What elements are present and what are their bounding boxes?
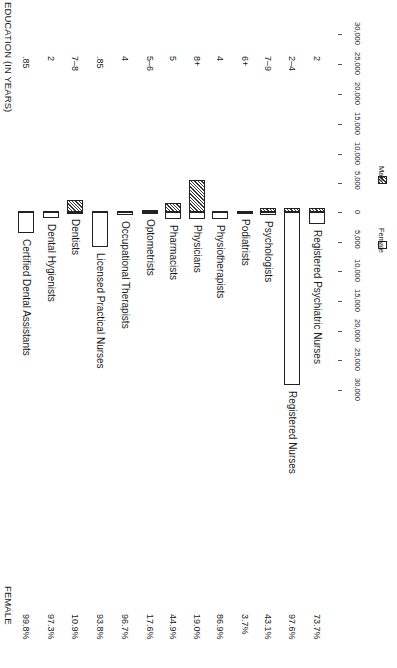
axis-tick-label: 25,000: [353, 348, 362, 371]
female-percent: 99.8%: [21, 614, 31, 640]
axis-tick-label: 30,000: [353, 22, 362, 45]
axis-tick-label: 30,000: [353, 378, 362, 401]
category-label: Optometrists: [145, 219, 156, 276]
female-bar: [260, 212, 276, 215]
legend-male-label: Male: [377, 166, 386, 182]
male-bar: [67, 200, 83, 212]
male-bar: [189, 180, 205, 212]
axis-tick: [338, 183, 342, 184]
female-bar: [43, 212, 59, 218]
axis-tick: [338, 360, 342, 361]
education-value: 2: [46, 56, 56, 61]
axis-tick-label: 5,000: [353, 171, 362, 190]
male-bar: [165, 203, 181, 212]
axis-tick-label: 15,000: [353, 289, 362, 312]
category-label: Physicians: [192, 225, 203, 273]
education-value: 7–8: [70, 56, 80, 71]
axis-tick-label: 25,000: [353, 52, 362, 75]
axis-tick: [338, 64, 342, 65]
female-percent: 97.6%: [287, 614, 297, 640]
axis-tick-label: 10,000: [353, 259, 362, 282]
category-label: Registered Psychiatric Nurses: [312, 230, 323, 364]
female-percent: 97.3%: [46, 614, 56, 640]
category-label: Dentists: [70, 219, 81, 255]
female-bar: [284, 212, 300, 385]
axis-tick: [338, 94, 342, 95]
axis-tick: [338, 34, 342, 35]
education-value: 5–6: [145, 56, 155, 71]
female-percent: 10.9%: [70, 614, 80, 640]
category-label: Pharmacists: [168, 225, 179, 280]
category-label: Certified Dental Assistants: [21, 239, 32, 356]
female-percent: 93.8%: [95, 614, 105, 640]
education-value: 4: [215, 56, 225, 61]
female-percent: 17.6%: [145, 614, 155, 640]
female-percent: 96.7%: [120, 614, 130, 640]
education-value: .85: [95, 56, 105, 69]
education-value: 6+: [240, 56, 250, 66]
female-bar: [309, 212, 325, 224]
axis-tick-label: 20,000: [353, 82, 362, 105]
axis-tick: [338, 390, 342, 391]
legend-female-label: Female: [377, 228, 386, 253]
axis-tick: [338, 212, 342, 213]
axis-tick: [338, 301, 342, 302]
female-bar: [189, 212, 205, 219]
education-header: EDUCATION (IN YEARS): [3, 2, 14, 112]
female-bar: [237, 212, 253, 214]
category-label: Psychologists: [263, 221, 274, 282]
axis-tick: [338, 242, 342, 243]
female-percent: 86.9%: [215, 614, 225, 640]
axis-tick: [338, 331, 342, 332]
axis-zero-label: 0: [353, 210, 362, 214]
female-percent: 73.7%: [312, 614, 322, 640]
female-percent: 43.1%: [263, 614, 273, 640]
education-value: 2: [312, 56, 322, 61]
female-percent: 3.7%: [240, 614, 250, 635]
category-label: Registered Nurses: [287, 391, 298, 474]
education-value: 2–4: [287, 56, 297, 71]
female-bar: [18, 212, 34, 233]
education-value: .85: [21, 56, 31, 69]
female-bar: [117, 212, 133, 215]
axis-tick-label: 5,000: [353, 230, 362, 249]
female-bar: [67, 212, 83, 214]
category-label: Dental Hygienists: [46, 224, 57, 302]
axis-tick: [338, 124, 342, 125]
axis-tick-label: 20,000: [353, 319, 362, 342]
female-bar: [165, 212, 181, 219]
female-bar: [142, 212, 158, 214]
category-label: Licensed Practical Nurses: [95, 253, 106, 369]
education-value: 5: [168, 56, 178, 61]
category-label: Podiatrists: [240, 219, 251, 266]
category-label: Physiotherapists: [215, 225, 226, 298]
education-value: 8+: [192, 56, 202, 66]
female-percent: 44.9%: [168, 614, 178, 640]
education-value: 4: [120, 56, 130, 61]
female-header: FEMALE: [3, 586, 14, 625]
female-bar: [212, 212, 228, 219]
female-percent: 19.0%: [192, 614, 202, 640]
category-label: Occupational Therapists: [120, 221, 131, 329]
education-value: 7–9: [263, 56, 273, 71]
axis-tick-label: 15,000: [353, 112, 362, 135]
axis-tick-label: 10,000: [353, 142, 362, 165]
axis-tick: [338, 271, 342, 272]
female-bar: [92, 212, 108, 247]
axis-tick: [338, 154, 342, 155]
